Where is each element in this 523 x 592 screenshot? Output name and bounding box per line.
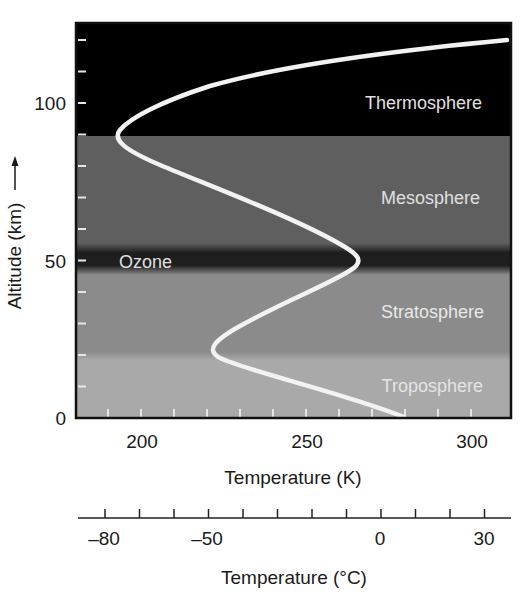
y-tick-label-50: 50 [45, 251, 66, 272]
label-stratosphere: Stratosphere [381, 302, 484, 322]
y-axis-label: Altitude (km) [4, 203, 25, 310]
y-tick-label-0: 0 [55, 408, 66, 429]
up-arrow-icon [12, 156, 19, 190]
y-tick-label-100: 100 [34, 93, 66, 114]
x-tick-label-minus80C: –80 [88, 528, 120, 549]
celsius-axis [78, 509, 511, 518]
x-tick-label-250K: 250 [291, 431, 323, 452]
x-tick-label-300K: 300 [456, 431, 488, 452]
x-tick-label-200K: 200 [126, 431, 158, 452]
x-axis-label-kelvin: Temperature (K) [224, 467, 361, 488]
label-ozone: Ozone [119, 252, 172, 272]
layer-thermosphere [76, 23, 511, 138]
atmosphere-temperature-chart: Thermosphere Mesosphere Ozone Stratosphe… [0, 0, 523, 592]
label-troposphere: Troposphere [382, 376, 483, 396]
y-axis-title: Altitude (km) [4, 203, 25, 310]
label-mesosphere: Mesosphere [381, 188, 480, 208]
label-thermosphere: Thermosphere [365, 93, 482, 113]
x-tick-label-minus50C: –50 [191, 528, 223, 549]
x-axis-label-celsius: Temperature (°C) [221, 567, 367, 588]
x-tick-label-30C: 30 [473, 528, 494, 549]
x-tick-label-0C: 0 [375, 528, 386, 549]
